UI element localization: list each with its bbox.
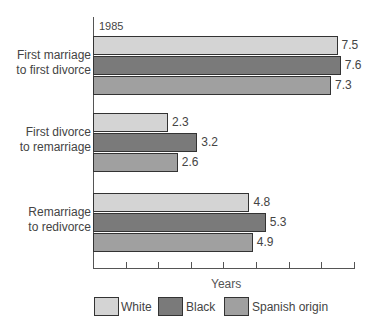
bar-black: [93, 133, 197, 152]
value-label: 7.5: [342, 38, 359, 52]
x-tick: [321, 262, 322, 268]
legend-label: Black: [186, 300, 215, 314]
value-label: 3.2: [201, 135, 218, 149]
x-tick: [354, 262, 355, 268]
value-label: 2.6: [182, 155, 199, 169]
value-label: 4.8: [253, 195, 270, 209]
x-tick: [289, 262, 290, 268]
value-label: 7.3: [335, 78, 352, 92]
bar-white: [93, 36, 338, 55]
legend-swatch: [224, 297, 249, 316]
value-label: 2.3: [172, 115, 189, 129]
bar-spanish-origin: [93, 76, 331, 95]
x-axis: [93, 268, 355, 269]
category-label: Remarriageto redivorce: [28, 205, 91, 235]
category-label: First divorceto remarriage: [20, 125, 91, 155]
value-label: 7.6: [345, 58, 362, 72]
bar-black: [93, 56, 341, 75]
bar-white: [93, 113, 168, 132]
x-tick: [126, 262, 127, 268]
value-label: 5.3: [270, 215, 287, 229]
bar-white: [93, 193, 249, 212]
bar-spanish-origin: [93, 233, 253, 252]
legend-swatch: [158, 297, 183, 316]
chart-title: 1985: [99, 20, 123, 32]
category-label: First marriageto first divorce: [16, 48, 91, 78]
x-axis-label: Years: [211, 277, 241, 291]
bar-spanish-origin: [93, 153, 178, 172]
value-label: 4.9: [257, 235, 274, 249]
x-tick: [223, 262, 224, 268]
bar-black: [93, 213, 266, 232]
chart: 1985 Years First marriageto first divorc…: [0, 0, 379, 336]
legend-swatch: [94, 297, 119, 316]
legend-label: White: [121, 300, 152, 314]
x-tick: [158, 262, 159, 268]
x-tick: [256, 262, 257, 268]
legend-label: Spanish origin: [252, 300, 328, 314]
x-tick: [191, 262, 192, 268]
